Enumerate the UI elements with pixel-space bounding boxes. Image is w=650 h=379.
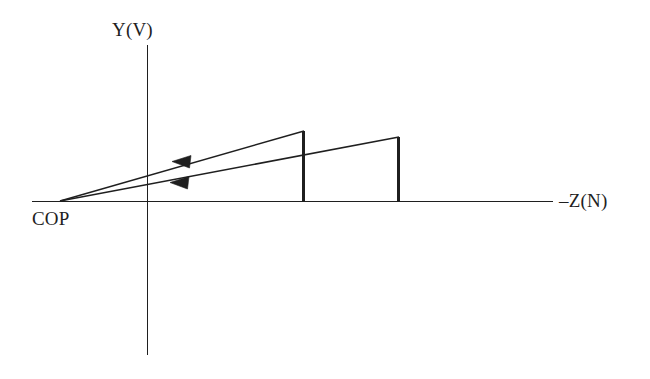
projection-diagram: Y(V) –Z(N) COP: [0, 0, 650, 379]
projector-near-line: [60, 131, 304, 201]
y-axis-label: Y(V): [112, 20, 153, 39]
z-axis-label: –Z(N): [559, 191, 607, 210]
diagram-canvas: [0, 0, 650, 379]
projector-far-line: [60, 137, 399, 201]
cop-label: COP: [32, 209, 70, 228]
